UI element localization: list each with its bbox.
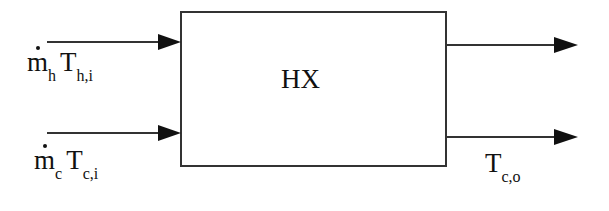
- cold-inlet-label: mc Tc,i: [34, 147, 98, 174]
- mass-flow-dot-symbol: m: [27, 49, 48, 76]
- hot-inlet-label: mh Th,i: [27, 49, 93, 76]
- block-label: HX: [281, 64, 320, 95]
- cold-outlet-arrow: [446, 129, 578, 145]
- cold-outlet-label: Tc,o: [485, 150, 521, 177]
- cold-inlet-arrow: [47, 125, 181, 141]
- hot-outlet-arrow: [446, 37, 578, 53]
- mass-flow-dot-symbol: m: [34, 147, 55, 174]
